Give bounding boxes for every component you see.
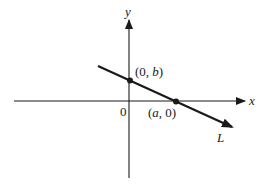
x-intercept-point xyxy=(173,99,179,105)
coordinate-diagram: y x 0 (0, b) (a, 0) L xyxy=(0,0,269,187)
y-intercept-point xyxy=(127,78,133,84)
x-intercept-label: (a, 0) xyxy=(148,105,176,120)
y-intercept-label: (0, b) xyxy=(135,64,163,79)
x-axis-label: x xyxy=(248,93,255,108)
y-axis-label: y xyxy=(123,4,131,19)
origin-label: 0 xyxy=(120,104,127,119)
line-label: L xyxy=(216,130,224,145)
